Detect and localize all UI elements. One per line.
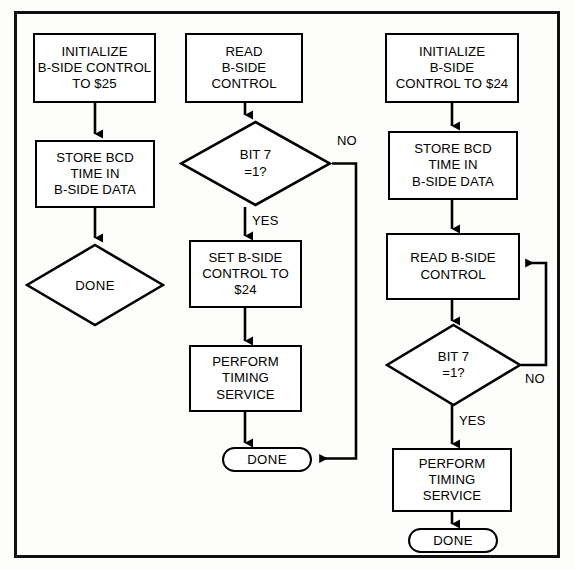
node-text-line: BIT 7: [438, 349, 469, 365]
node-text-line: DONE: [433, 533, 473, 548]
node-bit7-decision-col3: BIT 7 =1?: [385, 323, 522, 407]
node-bit7-decision-col2: BIT 7 =1?: [179, 120, 332, 207]
edge-label-no-col3: NO: [525, 371, 545, 386]
edge-label-yes-col2: YES: [252, 213, 279, 228]
node-text-line: TO $25: [38, 76, 152, 92]
node-text-line: TIMING: [419, 472, 486, 488]
node-text-line: PERFORM: [419, 456, 486, 472]
node-initialize-bside-control-25: INITIALIZE B-SIDE CONTROL TO $25: [33, 33, 156, 103]
node-text-line: B-SIDE CONTROL: [38, 60, 152, 76]
node-perform-timing-service-col2: PERFORM TIMING SERVICE: [189, 345, 302, 412]
node-text-line: TIMING: [212, 370, 279, 386]
node-text-line: =1?: [240, 164, 271, 180]
node-text-line: CONTROL: [211, 76, 276, 92]
node-perform-timing-service-col3: PERFORM TIMING SERVICE: [392, 448, 512, 512]
node-text-line: $24: [202, 282, 289, 298]
node-text-line: SERVICE: [419, 488, 486, 504]
flowchart-figure: INITIALIZE B-SIDE CONTROL TO $25 STORE B…: [0, 0, 575, 570]
node-text-line: TIME IN: [412, 157, 494, 173]
edge-label-yes-col3: YES: [459, 413, 486, 428]
node-text-line: CONTROL TO $24: [396, 76, 509, 92]
node-initialize-bside-control-24: INITIALIZE B-SIDE CONTROL TO $24: [385, 33, 519, 103]
node-text-line: B-SIDE: [396, 60, 509, 76]
node-text-line: READ B-SIDE: [410, 250, 495, 266]
node-text-line: STORE BCD: [412, 141, 494, 157]
node-text-line: CONTROL TO: [202, 266, 289, 282]
node-text-line: TIME IN: [54, 166, 136, 182]
node-text-line: DONE: [75, 278, 115, 293]
node-done-col3: DONE: [408, 528, 498, 553]
node-text-line: SET B-SIDE: [202, 250, 289, 266]
node-text-line: =1?: [438, 365, 469, 381]
node-text-line: DONE: [247, 452, 287, 467]
node-text-line: B-SIDE: [211, 60, 276, 76]
node-text-line: SERVICE: [212, 387, 279, 403]
node-text-line: PERFORM: [212, 354, 279, 370]
node-text-line: INITIALIZE: [396, 44, 509, 60]
node-text-line: READ: [211, 44, 276, 60]
node-read-bside-control-col2: READ B-SIDE CONTROL: [185, 33, 303, 103]
node-store-bcd-time-col1: STORE BCD TIME IN B-SIDE DATA: [35, 140, 155, 208]
node-done-col2: DONE: [222, 447, 312, 472]
node-text-line: B-SIDE DATA: [412, 174, 494, 190]
node-done-col1: DONE: [25, 243, 165, 327]
node-text-line: B-SIDE DATA: [54, 182, 136, 198]
node-text-line: INITIALIZE: [38, 44, 152, 60]
node-text-line: CONTROL: [410, 267, 495, 283]
node-set-bside-control-24: SET B-SIDE CONTROL TO $24: [189, 240, 302, 308]
node-store-bcd-time-col3: STORE BCD TIME IN B-SIDE DATA: [388, 131, 518, 200]
node-text-line: STORE BCD: [54, 150, 136, 166]
node-read-bside-control-col3: READ B-SIDE CONTROL: [386, 233, 520, 300]
node-text-line: BIT 7: [240, 147, 271, 163]
edge-label-no-col2: NO: [337, 133, 357, 148]
